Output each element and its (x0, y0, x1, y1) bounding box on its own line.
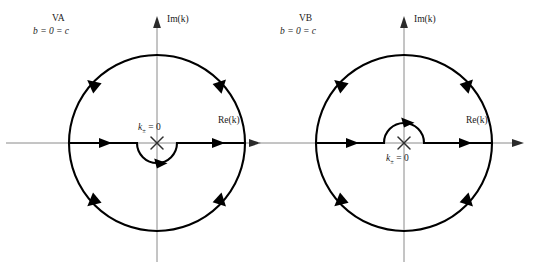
va-panel-title: VA (52, 13, 65, 23)
va-pole-label-equals: = 0 (146, 122, 161, 132)
va-axis-arrow-right (212, 138, 225, 148)
va-imaginary-axis-label: Im(k) (167, 14, 189, 25)
vb-axis-arrow-right (459, 138, 472, 148)
contour-diagram-svg: VA b = 0 = c Im(k) Re(k) k± = 0 (0, 0, 541, 275)
va-axis-arrow-left (99, 138, 112, 148)
vb-imaginary-axis-label: Im(k) (414, 14, 436, 25)
va-imaginary-axis-arrowhead (153, 16, 161, 28)
vb-pole-label: k± = 0 (386, 153, 409, 165)
vb-imaginary-axis (400, 16, 408, 262)
panel-va: VA b = 0 = c Im(k) Re(k) k± = 0 (6, 13, 261, 262)
panel-vb: VB b = 0 = c Im(k) Re(k) k± = 0 (258, 13, 524, 262)
vb-real-axis-label: Re(k) (466, 115, 488, 126)
vb-axis-arrow-left (346, 138, 359, 148)
va-pole-label: k± = 0 (138, 122, 161, 134)
vb-pole-label-equals: = 0 (394, 153, 409, 163)
va-panel-condition: b = 0 = c (33, 26, 70, 36)
vb-imaginary-axis-arrowhead (400, 16, 408, 28)
vb-panel-title: VB (299, 13, 312, 23)
va-imaginary-axis (153, 16, 161, 262)
va-real-axis-label: Re(k) (218, 115, 240, 126)
vb-real-axis-arrowhead (512, 139, 524, 147)
figure-canvas: VA b = 0 = c Im(k) Re(k) k± = 0 (0, 0, 541, 275)
vb-panel-condition: b = 0 = c (280, 26, 317, 36)
